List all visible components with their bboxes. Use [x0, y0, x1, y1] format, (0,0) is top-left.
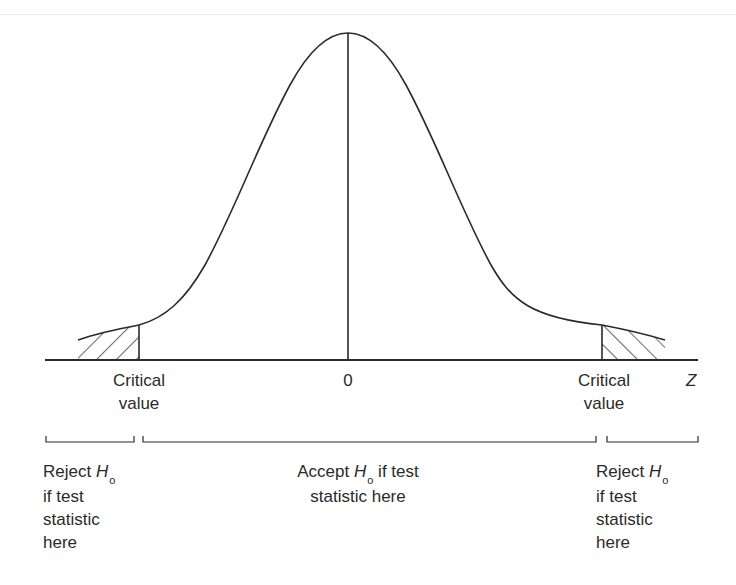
- critical-label-line1: Critical: [92, 369, 186, 392]
- h-symbol: H: [354, 462, 366, 481]
- bell-curve: [78, 33, 665, 340]
- bracket-reject-left: [46, 436, 134, 442]
- zero-label: 0: [330, 369, 366, 392]
- reject-line3: statistic: [596, 508, 706, 531]
- critical-label-line1: Critical: [557, 369, 651, 392]
- h-symbol: H: [649, 462, 661, 481]
- left-rejection-region: [78, 325, 139, 360]
- right-rejection-region: [602, 325, 665, 360]
- accept-prefix: Accept: [297, 462, 354, 481]
- reject-right-text: Reject Ho if test statistic here: [596, 460, 706, 554]
- bracket-accept: [143, 436, 596, 442]
- critical-label-line2: value: [92, 392, 186, 415]
- z-axis-label: Z: [686, 369, 696, 392]
- reject-prefix: Reject: [43, 462, 96, 481]
- accept-line2: statistic here: [268, 485, 448, 508]
- accept-suffix: if test: [373, 462, 418, 481]
- h-subscript: o: [662, 474, 668, 486]
- critical-label-line2: value: [557, 392, 651, 415]
- bracket-reject-right: [607, 436, 698, 442]
- reject-line4: here: [43, 531, 153, 554]
- critical-value-left-label: Critical value: [92, 369, 186, 415]
- h-subscript: o: [109, 474, 115, 486]
- reject-prefix: Reject: [596, 462, 649, 481]
- h-subscript: o: [367, 474, 373, 486]
- critical-value-right-label: Critical value: [557, 369, 651, 415]
- reject-left-text: Reject Ho if test statistic here: [43, 460, 153, 554]
- reject-line3: statistic: [43, 508, 153, 531]
- reject-line4: here: [596, 531, 706, 554]
- accept-text: Accept Ho if test statistic here: [268, 460, 448, 508]
- h-symbol: H: [96, 462, 108, 481]
- reject-line2: if test: [596, 485, 706, 508]
- reject-line2: if test: [43, 485, 153, 508]
